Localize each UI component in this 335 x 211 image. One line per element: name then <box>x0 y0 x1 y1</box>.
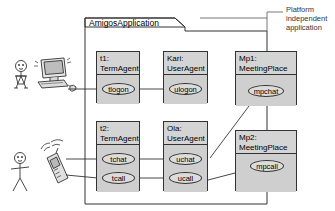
object-box-kari[interactable]: Kari: UserAgent <box>163 51 208 103</box>
object-name-kari-line2: UserAgent <box>167 64 204 74</box>
desktop-computer-icon <box>34 58 76 91</box>
actor-female-icon <box>14 61 28 89</box>
object-header-t2: t2: TermAgent <box>97 122 139 145</box>
object-header-ola: Ola: UserAgent <box>164 122 207 145</box>
annotation-line-2: independent <box>286 14 327 23</box>
object-name-ola-line1: Ola: <box>167 124 204 134</box>
object-header-kari: Kari: UserAgent <box>164 52 207 75</box>
object-name-t1-line1: t1: <box>100 54 136 64</box>
object-header-mp1: Mp1: MeetingPlace <box>236 52 296 75</box>
object-name-mp1-line2: MeetingPlace <box>239 64 293 74</box>
package-label: AmigosApplication <box>89 18 159 28</box>
connector-phone-tcall <box>66 175 98 178</box>
operation-ucall[interactable]: ucall <box>169 172 202 184</box>
operation-mpchat[interactable]: mpchat <box>248 85 284 97</box>
object-name-kari-line1: Kari: <box>167 54 204 64</box>
annotation-line-1: Platform <box>286 5 327 14</box>
object-box-t1[interactable]: t1: TermAgent <box>96 51 140 103</box>
operation-ulogon[interactable]: ulogon <box>169 83 202 95</box>
operation-tcall[interactable]: tcall <box>102 172 135 184</box>
annotation-line-3: application <box>286 23 327 32</box>
actor-male-icon <box>11 153 29 192</box>
object-name-mp1-line1: Mp1: <box>239 54 293 64</box>
object-name-t2-line1: t2: <box>100 124 136 134</box>
diagram-canvas: AmigosApplication Platform independent a… <box>0 0 335 211</box>
mobile-phone-icon <box>41 140 68 183</box>
object-header-mp2: Mp2: MeetingPlace <box>236 131 296 154</box>
object-name-t2-line2: TermAgent <box>100 134 136 144</box>
operation-tlogon[interactable]: tlogon <box>102 83 135 95</box>
operation-tchat[interactable]: tchat <box>102 153 135 165</box>
operation-mpcall[interactable]: mpcall <box>250 160 284 172</box>
object-name-ola-line2: UserAgent <box>167 134 204 144</box>
object-header-t1: t1: TermAgent <box>97 52 139 75</box>
annotation-note: Platform independent application <box>286 5 327 32</box>
object-name-mp2-line1: Mp2: <box>239 133 293 143</box>
operation-uchat[interactable]: uchat <box>169 153 202 165</box>
object-name-mp2-line2: MeetingPlace <box>239 143 293 153</box>
object-name-t1-line2: TermAgent <box>100 64 136 74</box>
